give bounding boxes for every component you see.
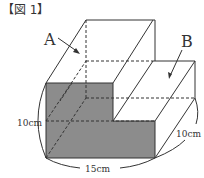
label-height: 10cm bbox=[17, 118, 42, 128]
label-b: B bbox=[181, 32, 193, 51]
label-depth: 10cm bbox=[176, 129, 201, 139]
solid-diagram: A B 10cm 15cm 10cm bbox=[0, 0, 204, 178]
label-a: A bbox=[43, 30, 56, 49]
label-width: 15cm bbox=[85, 164, 110, 174]
